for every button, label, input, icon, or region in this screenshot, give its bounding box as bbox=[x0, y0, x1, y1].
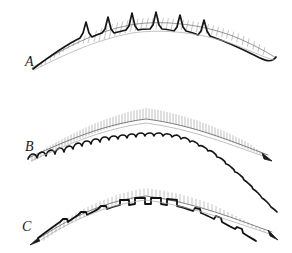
specimen-a-hatching bbox=[41, 6, 266, 67]
specimen-b-band-fill bbox=[28, 108, 268, 162]
specimen-panel-a: A bbox=[0, 0, 292, 85]
specimen-c-crest-outline bbox=[38, 198, 256, 241]
specimen-c-band-fill bbox=[38, 188, 272, 242]
specimen-c-left-tip bbox=[30, 238, 40, 245]
specimen-panel-b: B bbox=[0, 85, 292, 170]
specimen-b-drawing bbox=[0, 85, 292, 170]
specimen-a-drawing bbox=[0, 0, 292, 85]
figure-plate: A bbox=[0, 0, 292, 253]
specimen-panel-c: C bbox=[0, 168, 292, 253]
specimen-c-right-tip bbox=[268, 230, 278, 240]
specimen-c-drawing bbox=[0, 168, 292, 253]
